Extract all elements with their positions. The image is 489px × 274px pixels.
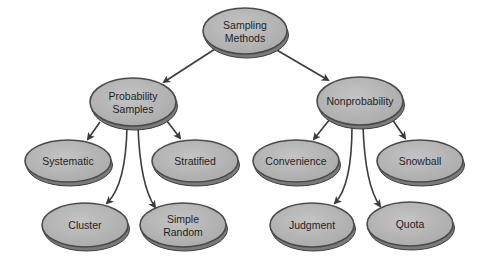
- node-nonprobability: Nonprobability: [317, 77, 405, 129]
- node-label: Cluster: [68, 219, 102, 231]
- node-label: Samples: [113, 103, 154, 115]
- node-label: Methods: [225, 32, 265, 44]
- node-label: Convenience: [265, 155, 326, 167]
- edge-nonprobability-to-convenience: [314, 119, 330, 139]
- edge-root-to-probability: [164, 49, 215, 82]
- node-label: Quota: [396, 218, 425, 230]
- node-convenience: Convenience: [253, 140, 341, 186]
- edge-probability-to-stratified: [167, 121, 180, 138]
- node-simple-random: SimpleRandom: [140, 203, 228, 251]
- edge-probability-to-systematic: [88, 122, 100, 139]
- node-stratified: Stratified: [152, 140, 240, 186]
- edge-nonprobability-to-snowball: [392, 119, 405, 138]
- node-label: Stratified: [174, 155, 216, 167]
- edge-probability-to-simple-random: [138, 126, 155, 207]
- node-label: Nonprobability: [326, 95, 394, 107]
- node-systematic: Systematic: [25, 140, 113, 186]
- node-label: Simple: [167, 213, 199, 225]
- node-cluster: Cluster: [42, 203, 130, 251]
- node-label: Sampling: [223, 19, 267, 31]
- node-quota: Quota: [367, 202, 455, 250]
- node-label: Systematic: [42, 155, 93, 167]
- node-label: Probability: [108, 90, 158, 102]
- edge-root-to-nonprobability: [275, 49, 328, 80]
- node-label: Snowball: [399, 155, 442, 167]
- node-snowball: Snowball: [377, 140, 465, 186]
- node-judgment: Judgment: [270, 203, 356, 251]
- node-probability: ProbabilitySamples: [90, 78, 178, 130]
- node-root: SamplingMethods: [203, 8, 289, 58]
- node-label: Random: [163, 226, 203, 238]
- sampling-methods-diagram: SamplingMethodsProbabilitySamplesNonprob…: [0, 0, 489, 274]
- node-label: Judgment: [289, 219, 335, 231]
